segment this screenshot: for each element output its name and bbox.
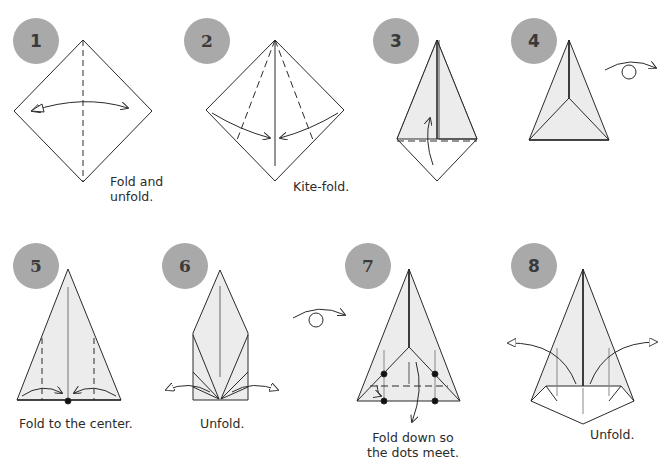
step-2-diagram: [206, 40, 344, 181]
step-badge-7: 7: [345, 243, 391, 289]
folding-diagrams: [0, 0, 672, 467]
step-badge-8: 8: [511, 243, 557, 289]
step-1-caption-line2: unfold.: [110, 189, 163, 204]
step-6-diagram: [166, 270, 278, 400]
step-badge-2: 2: [184, 18, 230, 64]
step-7-caption: Fold down so the dots meet.: [367, 430, 459, 460]
step-badge-6: 6: [162, 243, 208, 289]
turn-over-icon: [293, 309, 345, 327]
step-8-diagram: [508, 269, 657, 424]
instruction-sheet: 1 2 3 4 5 6 7 8 Fold and unfold. Kite-fo…: [0, 0, 672, 467]
step-7-caption-line1: Fold down so: [367, 430, 459, 445]
step-6-caption: Unfold.: [200, 416, 245, 431]
step-1-caption: Fold and unfold.: [110, 174, 163, 204]
turn-over-icon: [605, 62, 656, 79]
step-7-caption-line2: the dots meet.: [367, 445, 459, 460]
step-badge-3: 3: [373, 18, 419, 64]
step-7-diagram: [357, 269, 460, 422]
step-5-caption: Fold to the center.: [19, 416, 133, 431]
step-2-caption: Kite-fold.: [293, 179, 349, 194]
step-badge-4: 4: [511, 18, 557, 64]
step-1-caption-line1: Fold and: [110, 174, 163, 189]
step-badge-5: 5: [13, 243, 59, 289]
step-8-caption: Unfold.: [590, 427, 635, 442]
step-badge-1: 1: [13, 18, 59, 64]
step-5-diagram: [17, 269, 121, 404]
step-3-diagram: [397, 40, 477, 181]
